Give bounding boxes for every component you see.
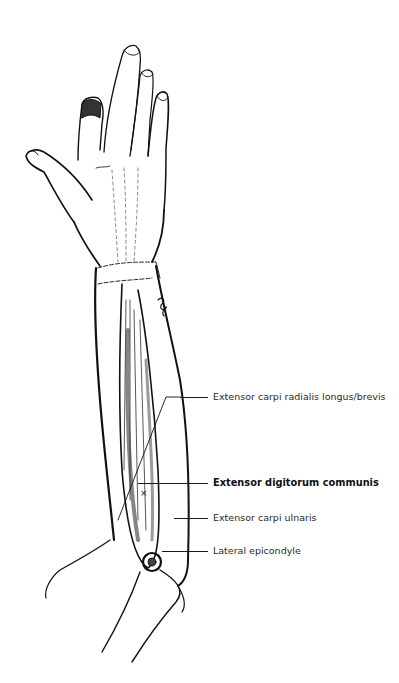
leader-line-ecu	[174, 518, 208, 519]
leader-line-ecr	[180, 397, 208, 398]
trigger-point-marker: ×	[140, 488, 148, 498]
label-extensor-digitorum-communis: Extensor digitorum communis	[213, 477, 379, 489]
leader-line-edc	[138, 483, 208, 484]
label-lateral-epicondyle: Lateral epicondyle	[213, 545, 301, 557]
leader-line-lat-epi	[162, 551, 208, 552]
label-extensor-carpi-radialis: Extensor carpi radialis longus/brevis	[213, 391, 385, 403]
forearm-illustration: ×	[0, 0, 399, 683]
label-extensor-carpi-ulnaris: Extensor carpi ulnaris	[213, 512, 317, 524]
